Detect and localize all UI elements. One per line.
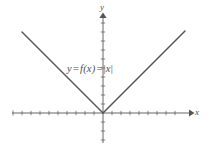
equation-equals-2: = [95,63,103,74]
y-axis-arrowhead-icon [99,13,106,19]
equation-equals-1: = [72,63,80,74]
absolute-value-graph-figure: y x y=f(x)=|x| [0,0,214,153]
y-axis-group [99,13,106,144]
plot-canvas [0,0,214,153]
x-axis-label: x [195,108,199,117]
curve-right-arm [103,31,185,113]
equation-abs-close: | [111,63,113,74]
function-equation-label: y=f(x)=|x| [67,64,113,75]
y-axis-label: y [100,3,104,12]
x-axis-arrowhead-icon [189,109,195,116]
